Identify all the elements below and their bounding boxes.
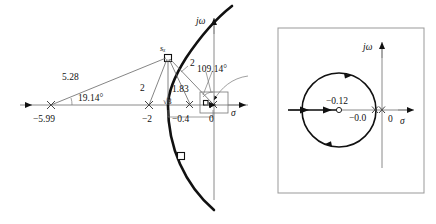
label-test-point-sx: sₓ	[160, 44, 166, 53]
figure-canvas: σ jω	[0, 0, 436, 224]
label-vector-2-right: 2	[190, 58, 195, 68]
test-point-conjugate-marker	[178, 153, 185, 160]
label-vector-5-28: 5.28	[62, 72, 79, 82]
label-angle-19-14: 19.14°	[78, 93, 103, 103]
label-vector-1-83: 1.83	[172, 84, 189, 94]
detail-callout-pointer	[214, 76, 248, 100]
inset-jomega-axis-label: jω	[361, 42, 373, 52]
inset-label-center-minus-0-12: −0.12	[326, 96, 348, 106]
detail-region-small-square	[204, 101, 209, 106]
label-angle-109-14: 109.14°	[197, 64, 227, 74]
vector-from-minus-0-4	[169, 59, 190, 104]
main-sigma-axis-label: σ	[231, 108, 236, 118]
main-jomega-axis-label: jω	[194, 16, 206, 26]
root-locus-figure: σ jω	[0, 0, 436, 224]
inset-label-break-minus-0-0: −0.0	[349, 113, 366, 123]
label-vector-2-left: 2	[140, 83, 145, 93]
panel-detail-inset: σ jω −0.12 −0	[278, 28, 424, 193]
panel-main-s-plane: σ jω	[20, 6, 248, 210]
angle-arc-19-14	[71, 98, 72, 105]
inset-label-origin: 0	[388, 114, 393, 124]
label-pole-minus-5-99: −5.99	[33, 114, 55, 124]
label-origin-main: 0	[209, 114, 214, 124]
leader-109-14-a	[206, 72, 211, 92]
inset-sigma-axis-label: σ	[400, 116, 405, 126]
label-pole-minus-0-4: −0.4	[172, 114, 189, 124]
label-vector-sqrt3: √3	[163, 97, 172, 106]
angle-arc-109-14	[203, 92, 213, 97]
label-pole-minus-2: −2	[142, 114, 152, 124]
inset-center-marker	[336, 107, 341, 112]
